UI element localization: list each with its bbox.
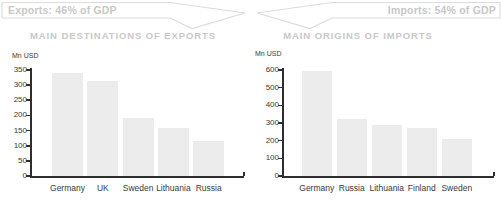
trade-infographic: Exports: 46% of GDP Imports: 54% of GDP …	[0, 0, 502, 208]
x-axis-end-tick	[493, 172, 495, 176]
y-tick-label: 0	[253, 171, 279, 181]
imports-bar-chart: 0100200300400500600GermanyRussiaLithuani…	[0, 0, 502, 208]
y-tick-label: 200	[253, 136, 279, 146]
bar-sweden	[442, 139, 473, 176]
y-tick-label: 400	[253, 100, 279, 110]
bar-finland	[407, 128, 438, 176]
x-tick-label: Sweden	[429, 183, 485, 193]
y-axis-line	[282, 68, 284, 177]
y-tick-label: 100	[253, 153, 279, 163]
y-tick-label: 500	[253, 83, 279, 93]
bar-russia	[337, 119, 368, 176]
y-tick-label: 600	[253, 65, 279, 75]
x-axis-line	[282, 176, 494, 178]
bar-lithuania	[372, 125, 403, 176]
y-tick-label: 300	[253, 118, 279, 128]
bar-germany	[302, 71, 333, 176]
